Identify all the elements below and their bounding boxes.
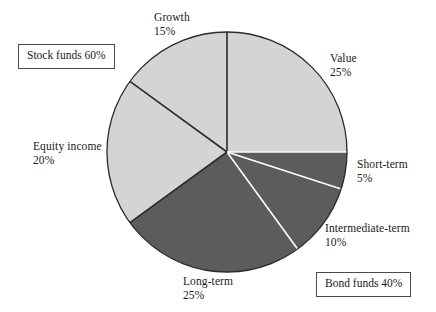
slice-label-intermediate-term-percent: 10%: [325, 236, 410, 250]
slice-label-intermediate-term: Intermediate-term 10%: [325, 222, 410, 249]
pie-chart-figure: Growth 15% Value 25% Equity income 20% S…: [0, 0, 436, 312]
group-box-stock-funds: Stock funds 60%: [18, 44, 115, 69]
slice-label-short-term: Short-term 5%: [357, 158, 408, 185]
slice-label-short-term-name: Short-term: [357, 158, 408, 170]
slice-label-equity-income-percent: 20%: [33, 154, 102, 168]
slice-label-long-term: Long-term 25%: [183, 275, 233, 302]
slice-label-equity-income: Equity income 20%: [33, 140, 102, 167]
slice-label-value-name: Value: [330, 52, 357, 64]
pie-slices-group: [107, 32, 347, 272]
slice-label-value-percent: 25%: [330, 66, 357, 80]
slice-label-growth-percent: 15%: [154, 25, 190, 39]
slice-label-growth-name: Growth: [154, 11, 190, 23]
slice-label-value: Value 25%: [330, 52, 357, 79]
pie-slice-value: [227, 32, 347, 152]
slice-label-intermediate-term-name: Intermediate-term: [325, 222, 410, 234]
slice-label-short-term-percent: 5%: [357, 172, 408, 186]
slice-label-equity-income-name: Equity income: [33, 140, 102, 152]
slice-label-growth: Growth 15%: [154, 11, 190, 38]
group-box-bond-funds: Bond funds 40%: [316, 272, 411, 297]
slice-label-long-term-name: Long-term: [183, 275, 233, 287]
slice-label-long-term-percent: 25%: [183, 289, 233, 303]
